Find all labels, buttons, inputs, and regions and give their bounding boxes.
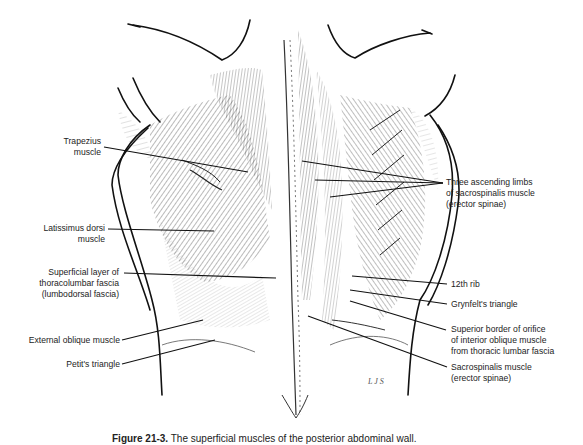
label-line: Trapezius [64, 136, 101, 147]
figure-caption: Figure 21-3. The superficial muscles of … [112, 433, 416, 444]
artist-signature: L J S [367, 377, 384, 386]
label-superior-border-orifice: Superior border of orifice of interior o… [451, 324, 554, 357]
label-sacrospinalis: Sacrospinalis muscle (erector spinae) [451, 362, 532, 384]
label-line: Superficial layer of [39, 267, 119, 278]
label-line: (erector spinae) [451, 373, 532, 384]
caption-text: The superficial muscles of the posterior… [171, 433, 417, 444]
label-line: Grynfelt's triangle [451, 299, 518, 310]
label-line: 12th rib [451, 279, 480, 290]
label-petits-triangle: Petit's triangle [66, 359, 120, 370]
label-ascending-limbs: Three ascending limbs of sacrospinalis m… [446, 177, 535, 210]
label-line: from thoracic lumbar fascia [451, 346, 554, 357]
label-line: muscle [43, 234, 105, 245]
left-muscles [118, 68, 272, 328]
label-line: of interior oblique muscle [451, 335, 554, 346]
label-line: Superior border of orifice [451, 324, 554, 335]
label-trapezius: Trapezius muscle [64, 136, 101, 158]
label-line: Sacrospinalis muscle [451, 362, 532, 373]
label-thoracolumbar-fascia: Superficial layer of thoracolumbar fasci… [39, 267, 119, 300]
label-latissimus-dorsi: Latissimus dorsi muscle [43, 223, 105, 245]
label-line: Three ascending limbs [446, 177, 535, 188]
label-line: of sacrospinalis muscle [446, 188, 535, 199]
label-grynfelts-triangle: Grynfelt's triangle [451, 299, 518, 310]
label-12th-rib: 12th rib [451, 279, 480, 290]
label-line: Latissimus dorsi [43, 223, 105, 234]
label-line: (lumbodorsal fascia) [39, 289, 119, 300]
leader-petits [122, 340, 215, 364]
label-external-oblique: External oblique muscle [29, 335, 120, 346]
label-line: muscle [64, 147, 101, 158]
label-line: External oblique muscle [29, 335, 120, 346]
label-line: Petit's triangle [66, 359, 120, 370]
leader-external-oblique [122, 320, 203, 340]
label-line: (erector spinae) [446, 199, 535, 210]
caption-label: Figure 21-3. [112, 433, 168, 444]
label-line: thoracolumbar fascia [39, 278, 119, 289]
